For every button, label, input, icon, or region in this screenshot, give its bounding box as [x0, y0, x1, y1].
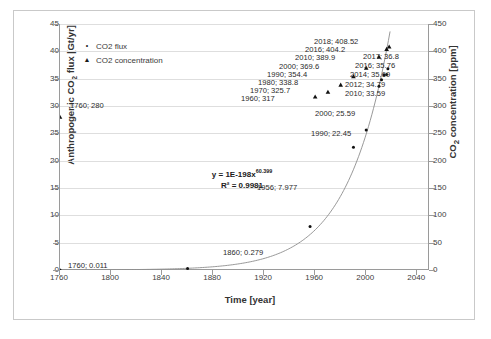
x-axis-tick-label: 1880	[190, 274, 234, 282]
flux-label-2017: 2017; 36.8	[363, 53, 399, 61]
conc-label-1760: 1760; 280	[70, 102, 104, 110]
y2-axis-title-tail: concentration [ppm]	[447, 45, 458, 139]
chart-legend: • CO2 flux ▲ CO2 concentration	[81, 39, 163, 67]
x-axis-tick-label: 1920	[241, 274, 285, 282]
flux-label-2016: 2016; 35.76	[355, 62, 395, 70]
secondary-y-axis-tick-label: 0	[433, 266, 473, 274]
secondary-y-axis-tick-label: 200	[433, 157, 473, 165]
plot-area: • CO2 flux ▲ CO2 concentration y = 1E-19…	[59, 24, 429, 270]
secondary-y-axis-tick-label: 350	[433, 75, 473, 83]
flux-data-point[interactable]	[365, 129, 368, 132]
flux-label-2010: 2010; 33.59	[345, 90, 385, 98]
legend-item-flux: • CO2 flux	[81, 39, 163, 53]
y2-axis-title-subscript: 2	[452, 140, 461, 144]
legend-label-flux: CO2 flux	[96, 42, 127, 51]
secondary-y-axis-tick-mark	[429, 270, 435, 271]
secondary-y-axis-tick-label: 300	[433, 102, 473, 110]
power-trendline	[60, 31, 390, 270]
flux-label-1860: 1860; 0.279	[223, 249, 263, 257]
flux-data-point[interactable]	[60, 268, 62, 270]
flux-label-1990: 1990; 22.45	[311, 130, 351, 138]
conc-label-2018: 2018; 408.52	[314, 38, 358, 46]
flux-label-2012: 2012; 34.79	[345, 81, 385, 89]
flux-label-2000: 2000; 25.59	[315, 110, 355, 118]
secondary-y-axis-tick-label: 150	[433, 184, 473, 192]
x-axis-tick-label: 1760	[37, 274, 81, 282]
conc-label-1970: 1970; 325.7	[250, 87, 290, 95]
secondary-y-axis-tick-label: 400	[433, 47, 473, 55]
x-axis-tick-label: 1800	[88, 274, 132, 282]
flux-data-point[interactable]	[309, 225, 312, 228]
secondary-y-axis-tick-label: 100	[433, 211, 473, 219]
x-axis-tick-mark	[314, 270, 315, 275]
equation-text: y = 1E-198x	[212, 170, 256, 179]
concentration-data-point[interactable]	[60, 115, 62, 119]
legend-label-concentration: CO2 concentration	[96, 56, 163, 65]
concentration-data-point[interactable]	[313, 94, 318, 98]
conc-label-2010: 2010; 389.9	[295, 54, 335, 62]
x-axis-title: Time [year]	[110, 294, 390, 305]
x-axis-tick-mark	[263, 270, 264, 275]
x-axis-tick-mark	[59, 270, 60, 275]
equation-exponent: 60.399	[256, 168, 273, 174]
x-axis-tick-label: 1960	[292, 274, 336, 282]
flux-marker-icon: •	[81, 39, 93, 53]
x-axis-tick-mark	[416, 270, 417, 275]
flux-label-1956: 1956; 7.977	[257, 184, 297, 192]
equation-line: y = 1E-198x60.399	[187, 166, 297, 180]
legend-item-concentration: ▲ CO2 concentration	[81, 53, 163, 67]
x-axis-tick-label: 1840	[139, 274, 183, 282]
conc-label-1990: 1990; 354.4	[267, 71, 307, 79]
x-axis-tick-mark	[365, 270, 366, 275]
x-axis-tick-mark	[161, 270, 162, 275]
secondary-y-axis-tick-label: 50	[433, 239, 473, 247]
secondary-y-axis-tick-label: 250	[433, 129, 473, 137]
conc-label-1960: 1960; 317	[241, 95, 275, 103]
flux-data-point[interactable]	[352, 146, 355, 149]
concentration-data-point[interactable]	[338, 82, 343, 86]
flux-label-1760: 1760; 0.011	[68, 262, 108, 270]
conc-label-1980: 1980; 338.8	[258, 79, 298, 87]
x-axis-tick-mark	[110, 270, 111, 275]
chart-figure: Anthropogenic CO2 flux [Gt/yr] CO2 conce…	[0, 0, 491, 339]
flux-label-2014: 2014; 35.69	[350, 71, 390, 79]
x-axis-tick-label: 2000	[343, 274, 387, 282]
flux-data-point[interactable]	[186, 267, 189, 270]
concentration-data-point[interactable]	[326, 90, 331, 94]
conc-label-2016: 2016; 404.2	[305, 46, 345, 54]
x-axis-tick-mark	[212, 270, 213, 275]
concentration-marker-icon: ▲	[81, 53, 93, 67]
conc-label-2000: 2000; 369.6	[279, 63, 319, 71]
secondary-y-axis-tick-label: 450	[433, 20, 473, 28]
x-axis-tick-label: 2040	[394, 274, 438, 282]
